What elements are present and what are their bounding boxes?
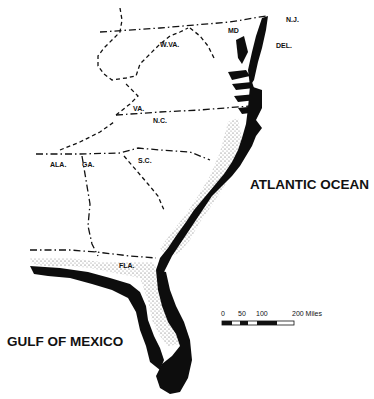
label-atlantic-ocean: ATLANTIC OCEAN bbox=[250, 177, 369, 192]
label-sc: S.C. bbox=[138, 157, 152, 164]
label-fla: FLA. bbox=[119, 262, 135, 269]
label-ala: ALA. bbox=[50, 161, 66, 168]
scale-tick-200-miles: 200 Miles bbox=[292, 310, 322, 317]
label-nc: N.C. bbox=[153, 117, 167, 124]
label-gulf-of-mexico: GULF OF MEXICO bbox=[7, 334, 123, 349]
scale-tick-100: 100 bbox=[256, 310, 268, 317]
coastal-map: N.J. MD DEL. W.VA. VA. N.C. S.C. ALA. GA… bbox=[0, 0, 374, 399]
scale-bar: 0 50 100 200 Miles bbox=[221, 310, 322, 325]
scale-tick-50: 50 bbox=[238, 310, 246, 317]
label-va: VA. bbox=[133, 105, 144, 112]
scale-tick-0: 0 bbox=[221, 310, 225, 317]
label-nj: N.J. bbox=[286, 16, 299, 23]
label-md: MD bbox=[228, 27, 239, 34]
label-wva: W.VA. bbox=[160, 41, 179, 48]
label-del: DEL. bbox=[276, 42, 292, 49]
label-ga: GA. bbox=[82, 161, 95, 168]
